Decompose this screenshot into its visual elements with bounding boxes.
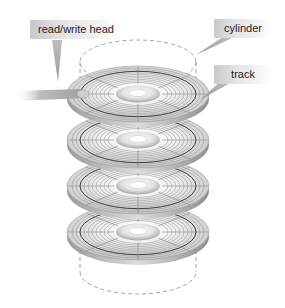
- read-write-head-pointer: [52, 40, 62, 82]
- read-write-head-label: read/write head: [30, 20, 122, 39]
- cylinder-pointer: [196, 36, 232, 55]
- disk-illustration: [0, 0, 285, 308]
- platter-1: [67, 66, 209, 127]
- disk-diagram: read/write head cylinder track: [0, 0, 285, 308]
- track-label: track: [214, 65, 272, 84]
- cylinder-label: cylinder: [214, 19, 272, 38]
